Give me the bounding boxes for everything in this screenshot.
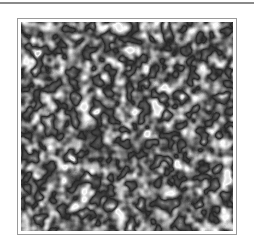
texture-fill [21,22,233,231]
page: Grayscale noise texture with bright cont… [0,0,254,247]
texture-svg [21,22,233,231]
top-horizontal-rule [0,2,254,4]
noise-texture-image [21,22,233,231]
image-frame [17,18,237,235]
